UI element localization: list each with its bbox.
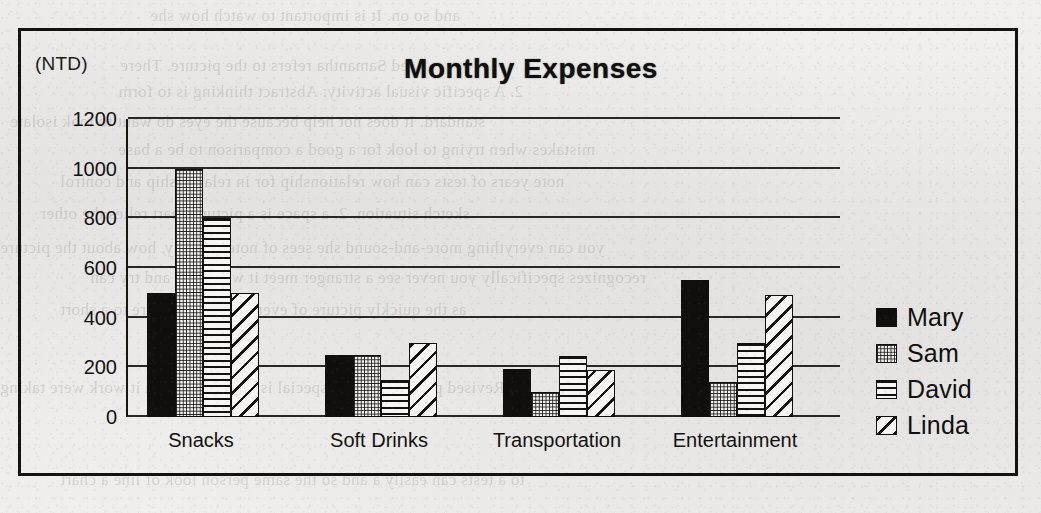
bar[interactable] (409, 343, 437, 418)
legend-label: Linda (907, 411, 969, 440)
scanned-page: and so on. It is important to watch how … (0, 0, 1041, 513)
bar[interactable] (765, 295, 793, 417)
legend-swatch-icon (876, 416, 897, 435)
bar[interactable] (503, 369, 531, 417)
bar[interactable] (175, 169, 203, 417)
legend-item-mary[interactable]: Mary (876, 299, 972, 335)
plot-area: 120010008006004002000 (126, 119, 838, 417)
y-axis-tick-label: 1000 (73, 157, 118, 180)
chart-title: Monthly Expenses (321, 53, 741, 85)
bar[interactable] (203, 218, 231, 417)
legend-item-linda[interactable]: Linda (876, 407, 972, 443)
bleed-text-line: and so on. It is important to watch how … (150, 6, 460, 26)
legend-label: David (907, 375, 972, 404)
legend-label: Sam (907, 339, 959, 368)
y-axis-tick-label: 600 (84, 257, 117, 280)
bar[interactable] (737, 343, 765, 418)
chart-legend: MarySamDavidLinda (876, 299, 972, 443)
bar-group (503, 119, 615, 417)
y-axis-unit-label: (NTD) (35, 53, 88, 75)
bar[interactable] (147, 293, 175, 417)
bar-series-container (128, 119, 840, 417)
bar[interactable] (353, 355, 381, 417)
y-axis-tick-label: 0 (106, 406, 117, 429)
y-axis-tick-label: 200 (84, 356, 117, 379)
bar[interactable] (681, 280, 709, 417)
bar-group (325, 119, 437, 417)
bar[interactable] (709, 382, 737, 417)
y-axis-tick-label: 800 (84, 207, 117, 230)
bar[interactable] (587, 370, 615, 417)
bar[interactable] (531, 392, 559, 417)
legend-swatch-icon (876, 380, 897, 399)
legend-label: Mary (907, 303, 963, 332)
x-axis-category-label: Entertainment (673, 429, 798, 452)
bar[interactable] (559, 356, 587, 417)
y-axis-tick-label: 400 (84, 306, 117, 329)
x-axis-category-label: Transportation (493, 429, 621, 452)
y-axis-tick-label: 1200 (73, 108, 118, 131)
bar[interactable] (381, 380, 409, 417)
legend-swatch-icon (876, 344, 897, 363)
legend-swatch-icon (876, 308, 897, 327)
chart-frame: (NTD) Monthly Expenses 12001000800600400… (18, 28, 1018, 476)
legend-item-sam[interactable]: Sam (876, 335, 972, 371)
bar[interactable] (325, 355, 353, 417)
x-axis-category-label: Snacks (168, 429, 234, 452)
x-axis-category-label: Soft Drinks (330, 429, 428, 452)
bar[interactable] (231, 293, 259, 417)
bar-group (147, 119, 259, 417)
legend-item-david[interactable]: David (876, 371, 972, 407)
bar-group (681, 119, 793, 417)
